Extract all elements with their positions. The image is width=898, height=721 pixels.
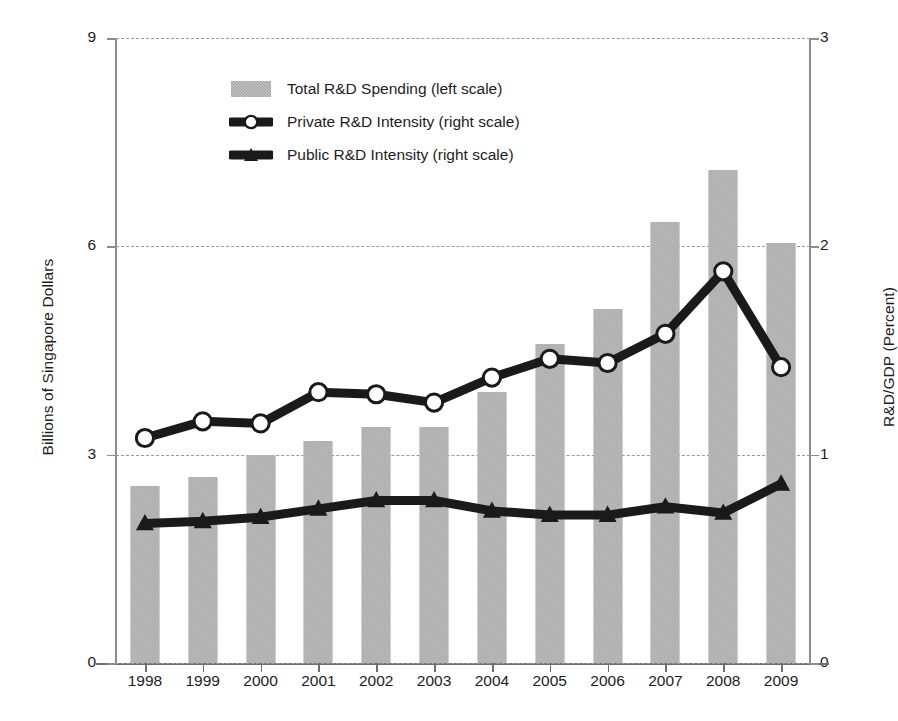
x-axis-tick-1998: 1998: [116, 672, 174, 690]
marker-private-2000: [252, 415, 269, 432]
x-axis-tick-1999: 1999: [174, 672, 232, 690]
left-axis-tickmark: [107, 246, 116, 248]
x-axis-tick-labels: 1998199920002001200220032004200520062007…: [116, 672, 810, 698]
left-axis-tickmark: [107, 38, 116, 40]
left-axis-tickmark: [107, 663, 116, 665]
left-axis-tick-labels: 0369: [38, 0, 96, 721]
right-axis-tickmark: [810, 38, 819, 40]
x-axis-tickmark: [723, 663, 725, 672]
right-axis-tick-0: 0: [820, 653, 844, 671]
left-axis-tickmark: [107, 455, 116, 457]
legend-label-total-rd-spending: Total R&D Spending (left scale): [287, 81, 502, 97]
legend-label-private-rd-intensity: Private R&D Intensity (right scale): [287, 114, 520, 130]
x-axis-tick-2008: 2008: [694, 672, 752, 690]
legend-item-public-rd-intensity: Public R&D Intensity (right scale): [229, 138, 609, 171]
legend-item-total-rd-spending: Total R&D Spending (left scale): [229, 72, 609, 105]
x-axis-tickmark: [376, 663, 378, 672]
marker-private-2001: [310, 384, 327, 401]
marker-private-2008: [715, 263, 732, 280]
marker-private-1999: [194, 413, 211, 430]
line-path-public: [145, 484, 781, 524]
x-axis-tickmark: [145, 663, 147, 672]
x-axis-tickmark: [550, 663, 552, 672]
right-axis-tick-2: 2: [820, 236, 844, 254]
x-axis-tickmark: [781, 663, 783, 672]
legend-item-private-rd-intensity: Private R&D Intensity (right scale): [229, 105, 609, 138]
right-axis-tickmark: [810, 663, 819, 665]
x-axis-tick-2000: 2000: [232, 672, 290, 690]
gridline: [116, 663, 810, 664]
x-axis-tick-2005: 2005: [521, 672, 579, 690]
right-axis-tick-3: 3: [820, 28, 844, 46]
legend-label-public-rd-intensity: Public R&D Intensity (right scale): [287, 147, 514, 163]
right-axis-tickmark: [810, 455, 819, 457]
bar-swatch-icon: [229, 78, 273, 100]
right-axis-tick-labels: 0123: [820, 0, 860, 721]
marker-private-2004: [483, 369, 500, 386]
marker-private-2007: [657, 325, 674, 342]
x-axis-tickmark: [203, 663, 205, 672]
x-axis-tickmark: [665, 663, 667, 672]
marker-private-2002: [368, 386, 385, 403]
x-axis-tickmark: [261, 663, 263, 672]
right-axis-tickmark: [810, 246, 819, 248]
x-axis-tickmark: [492, 663, 494, 672]
x-axis-tick-2001: 2001: [289, 672, 347, 690]
left-axis-tick-9: 9: [72, 28, 96, 46]
marker-private-2003: [425, 394, 442, 411]
left-axis-tick-0: 0: [72, 653, 96, 671]
x-axis-tick-2004: 2004: [463, 672, 521, 690]
left-axis-tick-6: 6: [72, 236, 96, 254]
line-filled-triangle-icon: [229, 144, 273, 166]
line-path-private: [145, 271, 781, 438]
x-axis-tickmark: [318, 663, 320, 672]
marker-private-2006: [599, 354, 616, 371]
x-axis-tick-2003: 2003: [405, 672, 463, 690]
right-axis-tick-1: 1: [820, 445, 844, 463]
chart-legend: Total R&D Spending (left scale) Private …: [229, 72, 609, 171]
marker-private-1998: [136, 429, 153, 446]
x-axis-tick-2006: 2006: [579, 672, 637, 690]
x-axis-tick-2009: 2009: [752, 672, 810, 690]
x-axis-tickmark: [434, 663, 436, 672]
x-axis-tick-2002: 2002: [347, 672, 405, 690]
x-axis-tick-2007: 2007: [636, 672, 694, 690]
marker-private-2009: [772, 359, 789, 376]
right-axis-title: R&D/GDP (Percent): [880, 192, 898, 522]
marker-private-2005: [541, 350, 558, 367]
line-open-circle-icon: [229, 111, 273, 133]
left-axis-tick-3: 3: [72, 445, 96, 463]
x-axis-tickmark: [608, 663, 610, 672]
